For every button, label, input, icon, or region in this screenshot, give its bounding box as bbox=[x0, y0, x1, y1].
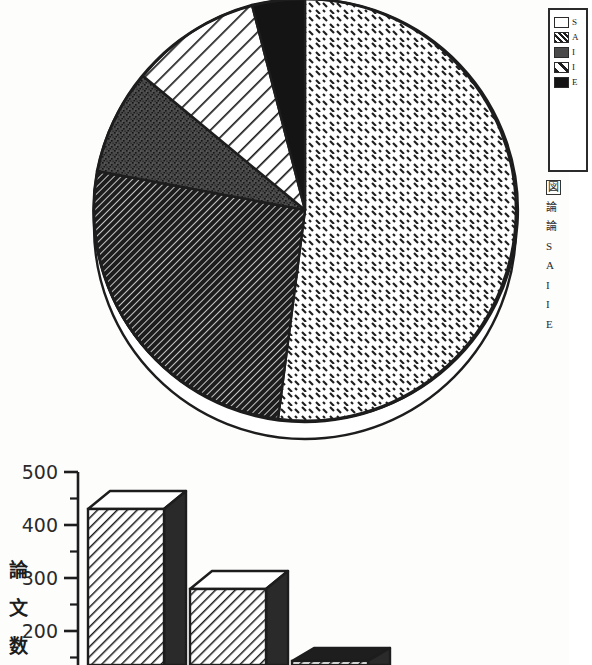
legend-item: S bbox=[554, 15, 586, 30]
pie-legend-box: S A I I E bbox=[548, 8, 588, 172]
bar-item bbox=[88, 491, 186, 665]
bar-item bbox=[292, 648, 390, 665]
caption-line: 論 bbox=[546, 217, 592, 237]
caption-line: 図 bbox=[546, 178, 592, 198]
caption-line: 論 bbox=[546, 198, 592, 218]
legend-item-label: I bbox=[572, 45, 575, 60]
legend-swatch-icon bbox=[554, 62, 569, 73]
bar-y-axis-title: 論 文 数 bbox=[6, 551, 30, 665]
legend-item-label: I bbox=[572, 60, 575, 75]
bar-y-axis-title-char: 文 bbox=[6, 589, 30, 627]
caption-marker: 図 bbox=[546, 180, 561, 195]
legend-swatch-icon bbox=[554, 17, 569, 28]
legend-swatch-icon bbox=[554, 77, 569, 88]
legend-swatch-icon bbox=[554, 32, 569, 43]
caption-line: E bbox=[546, 315, 592, 335]
caption-line: A bbox=[546, 256, 592, 276]
pie-slice-a bbox=[93, 171, 305, 419]
caption-line: I bbox=[546, 276, 592, 296]
pie-slice-s bbox=[278, 0, 518, 421]
bar-y-axis-title-char: 数 bbox=[6, 627, 30, 665]
legend-item: I bbox=[554, 45, 586, 60]
bar-y-axis-title-char: 論 bbox=[6, 551, 30, 589]
bar-chart-figure: 論 文 数 bbox=[0, 458, 569, 665]
caption-line: S bbox=[546, 237, 592, 257]
bar-y-axis bbox=[64, 472, 78, 665]
legend-item-label: A bbox=[572, 30, 579, 45]
legend-item: A bbox=[554, 30, 586, 45]
bar-chart-svg: 500 400 300 200 bbox=[0, 458, 569, 665]
caption-line: I bbox=[546, 295, 592, 315]
figure-caption: 図 論 論 S A I I E bbox=[546, 178, 592, 334]
legend-item: E bbox=[554, 75, 586, 90]
pie-chart-svg bbox=[0, 0, 545, 460]
pie-chart-figure bbox=[0, 0, 545, 460]
legend-item: I bbox=[554, 60, 586, 75]
bar-y-tick-label: 500 bbox=[22, 461, 58, 483]
legend-swatch-icon bbox=[554, 47, 569, 58]
legend-item-label: S bbox=[572, 15, 577, 30]
bar-item bbox=[190, 571, 288, 665]
legend-item-label: E bbox=[572, 75, 578, 90]
bar-y-tick-label: 400 bbox=[22, 514, 58, 536]
legend-entry-list: S A I I E bbox=[550, 10, 586, 90]
